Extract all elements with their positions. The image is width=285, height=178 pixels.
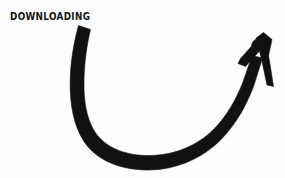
curved-arrow-illustration	[0, 0, 285, 178]
caption-label: DOWNLOADING	[10, 9, 90, 23]
arrow-shaft	[70, 26, 262, 171]
sketch-canvas: DOWNLOADING	[0, 0, 285, 178]
